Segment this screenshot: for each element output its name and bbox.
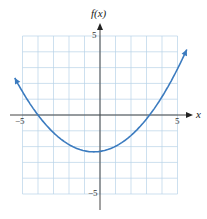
x-axis-arrow-icon bbox=[186, 112, 193, 118]
y-axis-label: f(x) bbox=[91, 7, 107, 20]
x-max-tick: 5 bbox=[175, 116, 180, 126]
y-min-tick: −5 bbox=[88, 188, 98, 198]
y-axis-arrow-icon bbox=[97, 23, 103, 30]
parabola-curve bbox=[15, 50, 187, 152]
y-max-tick: 5 bbox=[92, 30, 97, 40]
x-min-tick: −5 bbox=[15, 116, 25, 126]
function-graph: f(x) x −5 5 5 −5 bbox=[0, 0, 207, 219]
x-axis-label: x bbox=[195, 108, 201, 120]
